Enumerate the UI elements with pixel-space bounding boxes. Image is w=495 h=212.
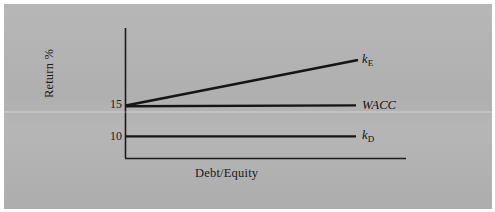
x-axis-label: Debt/Equity bbox=[195, 166, 258, 181]
series-line-wacc bbox=[126, 105, 356, 106]
y-axis-label: Return % bbox=[42, 19, 57, 129]
series-label-ke-subscript: E bbox=[368, 58, 374, 68]
figure-canvas: Return % Debt/Equity 15 10 kE WACC kD bbox=[0, 0, 495, 212]
y-tick-label-10: 10 bbox=[100, 129, 122, 144]
series-label-kd-subscript: D bbox=[368, 134, 375, 144]
series-label-ke-base: k bbox=[362, 52, 368, 66]
series-label-kd: kD bbox=[362, 128, 374, 143]
series-label-wacc-base: WACC bbox=[362, 98, 396, 112]
y-tick-label-15: 15 bbox=[100, 97, 122, 112]
series-label-kd-base: k bbox=[362, 128, 368, 142]
series-label-wacc: WACC bbox=[362, 98, 396, 113]
series-line-ke bbox=[126, 60, 358, 106]
series-label-ke: kE bbox=[362, 52, 373, 67]
